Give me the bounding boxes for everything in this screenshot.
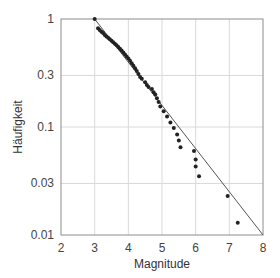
data-point	[158, 104, 162, 108]
y-tick-label: 0.3	[37, 68, 54, 82]
y-tick-label: 0.1	[37, 120, 54, 134]
x-axis-label: Magnitude	[134, 257, 190, 271]
y-tick-label: 1	[47, 12, 54, 26]
data-point	[172, 126, 176, 130]
data-point	[194, 158, 198, 162]
data-point	[179, 145, 183, 149]
y-tick-label: 0.03	[31, 176, 55, 190]
data-point	[177, 138, 181, 142]
data-point	[236, 221, 240, 225]
data-point	[140, 77, 144, 81]
y-tick-label: 0.01	[31, 228, 55, 242]
x-tick-label: 5	[159, 241, 166, 255]
grid-lines	[61, 19, 263, 235]
x-tick-label: 4	[125, 241, 132, 255]
data-point	[197, 174, 201, 178]
x-tick-label: 6	[192, 241, 199, 255]
y-axis-label: Häufigkeit	[11, 100, 25, 154]
data-point	[194, 165, 198, 169]
x-tick-label: 3	[91, 241, 98, 255]
data-point	[192, 149, 196, 153]
data-point	[168, 121, 172, 125]
data-point	[165, 115, 169, 119]
data-point	[175, 133, 179, 137]
data-point	[147, 85, 151, 89]
y-axis-ticks: 10.30.10.030.01	[31, 12, 55, 242]
data-point	[153, 92, 157, 96]
x-tick-label: 7	[226, 241, 233, 255]
x-tick-label: 2	[58, 241, 65, 255]
data-points	[93, 17, 240, 225]
data-point	[162, 109, 166, 113]
data-point	[157, 100, 161, 104]
x-tick-label: 8	[260, 241, 267, 255]
data-point	[226, 194, 230, 198]
data-point	[93, 17, 97, 21]
x-axis-ticks: 2345678	[58, 241, 267, 255]
data-point	[155, 96, 159, 100]
magnitude-frequency-chart: 2345678 10.30.10.030.01 Magnitude Häufig…	[0, 0, 280, 278]
